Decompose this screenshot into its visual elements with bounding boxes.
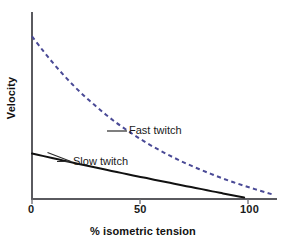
series-label-slow-twitch: Slow twitch — [73, 155, 128, 167]
x-tick-label-0: 0 — [28, 203, 34, 215]
x-tick-label-50: 50 — [134, 203, 147, 215]
velocity-tension-chart: 0 50 100 Fast twitch Slow twitch % isome… — [0, 0, 286, 249]
x-axis-title: % isometric tension — [0, 225, 286, 237]
y-axis-title: Velocity — [5, 68, 17, 128]
series-line-fast-twitch — [32, 36, 272, 194]
x-tick-label-100: 100 — [240, 203, 259, 215]
series-label-fast-twitch: Fast twitch — [129, 124, 182, 136]
